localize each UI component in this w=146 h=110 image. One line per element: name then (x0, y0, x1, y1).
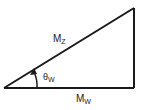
hypotenuse-label: MZ (53, 33, 66, 45)
base-label: MW (76, 93, 91, 105)
angle-label: θW (43, 72, 55, 83)
weinberg-triangle-diagram: MZ θW MW (0, 0, 146, 110)
hypotenuse-edge (4, 8, 134, 88)
angle-arc (34, 72, 37, 88)
